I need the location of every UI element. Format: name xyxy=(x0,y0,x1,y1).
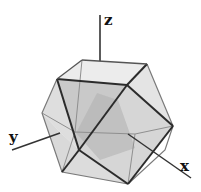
x-axis-label: x xyxy=(180,157,190,175)
z-axis-label: z xyxy=(104,11,113,29)
diagram: z y x xyxy=(0,0,201,192)
polyhedron-figure: z y x xyxy=(0,0,201,192)
y-axis-label: y xyxy=(8,128,19,146)
